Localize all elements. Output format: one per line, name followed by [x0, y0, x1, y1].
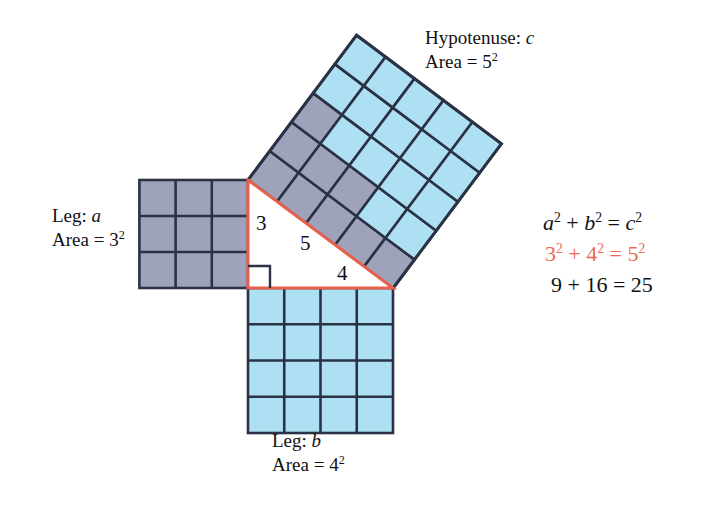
eq-c-value-exponent: 2: [638, 241, 645, 256]
hypotenuse-label-prefix: Hypotenuse:: [425, 27, 526, 48]
diagram-canvas: Hypotenuse: c Area = 52 Leg: a Area = 32…: [0, 0, 726, 509]
eq-b-squared-result: 16: [585, 272, 607, 297]
eq-plus-2: +: [563, 241, 586, 266]
leg-a-label-line1: Leg: a: [52, 204, 125, 228]
hypotenuse-area-exponent: 2: [492, 50, 498, 64]
leg-b-area-line2: Area = 42: [272, 453, 345, 477]
hypotenuse-label: Hypotenuse: c Area = 52: [425, 26, 534, 75]
equation-row-symbolic: a2 + b2 = c2: [543, 207, 653, 238]
eq-a-squared-result: 9: [551, 272, 562, 297]
leg-a-label-prefix: Leg:: [52, 205, 92, 226]
eq-plus-3: +: [562, 272, 585, 297]
eq-a-exponent: 2: [554, 210, 561, 225]
hypotenuse-area-line2: Area = 52: [425, 50, 534, 74]
eq-equals-3: =: [607, 272, 630, 297]
equation-row-result: 9 + 16 = 25: [543, 269, 653, 300]
eq-plus-1: +: [561, 210, 584, 235]
eq-equals-1: =: [602, 210, 625, 235]
side-length-a: 3: [256, 211, 267, 236]
hypotenuse-area-prefix: Area = 5: [425, 51, 492, 72]
equation-block: a2 + b2 = c2 32 + 42 = 52 9 + 16 = 25: [543, 207, 653, 301]
leg-b-label-line1: Leg: b: [272, 429, 345, 453]
eq-a-value-exponent: 2: [556, 241, 563, 256]
leg-a-label: Leg: a Area = 32: [52, 204, 125, 253]
eq-b-symbol: b: [584, 210, 595, 235]
eq-a-symbol: a: [543, 210, 554, 235]
square-on-leg-b: [248, 288, 393, 433]
side-length-c: 5: [300, 231, 311, 256]
eq-c-exponent: 2: [635, 210, 642, 225]
side-length-b: 4: [337, 261, 348, 286]
hypotenuse-label-symbol: c: [526, 27, 534, 48]
leg-b-area-prefix: Area = 4: [272, 454, 339, 475]
eq-a-value: 3: [545, 241, 556, 266]
leg-a-area-line2: Area = 32: [52, 228, 125, 252]
eq-equals-2: =: [604, 241, 627, 266]
leg-b-label-prefix: Leg:: [272, 430, 312, 451]
leg-b-label: Leg: b Area = 42: [272, 429, 345, 478]
eq-c-squared-result: 25: [631, 272, 653, 297]
hypotenuse-label-line1: Hypotenuse: c: [425, 26, 534, 50]
square-on-leg-a: [139, 180, 248, 288]
leg-b-area-exponent: 2: [339, 453, 345, 467]
eq-c-symbol: c: [625, 210, 635, 235]
leg-b-label-symbol: b: [312, 430, 322, 451]
equation-row-numeric-squares: 32 + 42 = 52: [543, 238, 653, 269]
leg-a-label-symbol: a: [92, 205, 102, 226]
leg-a-area-prefix: Area = 3: [52, 229, 119, 250]
eq-c-value: 5: [627, 241, 638, 266]
leg-a-area-exponent: 2: [119, 228, 125, 242]
eq-b-value: 4: [586, 241, 597, 266]
